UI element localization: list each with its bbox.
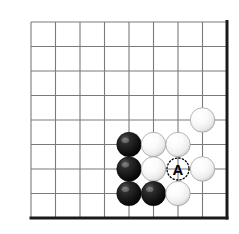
- stone-highlight: [171, 187, 178, 192]
- go-diagram-figure: A: [0, 0, 239, 234]
- stone-white[interactable]: [141, 157, 166, 182]
- stone-highlight: [171, 138, 178, 143]
- stone-body: [117, 132, 142, 157]
- marker-label: A: [173, 161, 184, 178]
- stone-white[interactable]: [141, 132, 166, 157]
- stone-body: [117, 157, 142, 182]
- stone-body: [166, 132, 191, 157]
- stone-highlight: [146, 187, 153, 192]
- stone-body: [190, 108, 215, 133]
- stone-body: [141, 157, 166, 182]
- stone-highlight: [122, 138, 129, 143]
- stone-black[interactable]: [117, 132, 142, 157]
- stone-highlight: [195, 162, 202, 167]
- stone-highlight: [146, 162, 153, 167]
- stone-body: [117, 181, 142, 206]
- stone-black[interactable]: [117, 181, 142, 206]
- stone-highlight: [146, 138, 153, 143]
- stone-white[interactable]: [166, 181, 191, 206]
- stone-white[interactable]: [166, 132, 191, 157]
- stone-body: [141, 181, 166, 206]
- stone-white[interactable]: [190, 108, 215, 133]
- stone-highlight: [195, 113, 202, 118]
- stone-body: [166, 181, 191, 206]
- stone-black[interactable]: [141, 181, 166, 206]
- stone-body: [141, 132, 166, 157]
- stone-white[interactable]: [190, 157, 215, 182]
- go-board[interactable]: A: [0, 0, 239, 234]
- stone-body: [190, 157, 215, 182]
- stone-highlight: [122, 162, 129, 167]
- stone-black[interactable]: [117, 157, 142, 182]
- stone-highlight: [122, 187, 129, 192]
